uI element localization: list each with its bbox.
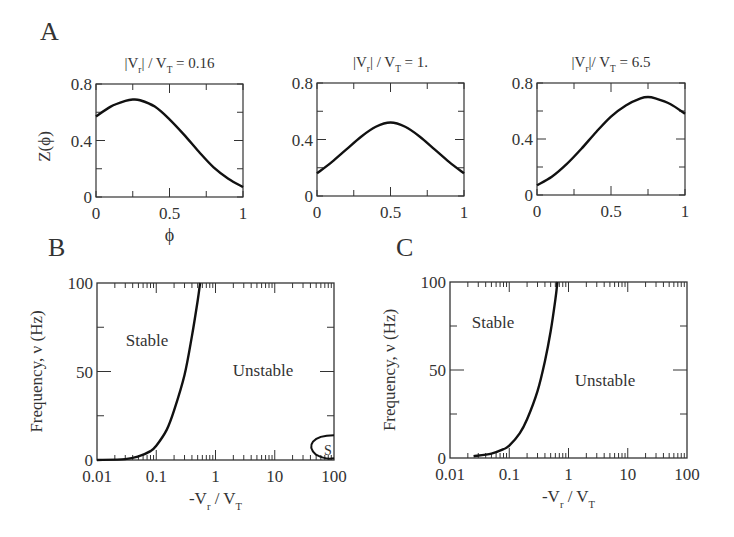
y-axis-label: Frequency, ν (Hz) bbox=[27, 310, 46, 432]
region-label-unstable: Unstable bbox=[233, 361, 293, 380]
y-tick-label: 50 bbox=[76, 363, 93, 382]
region-label-stable: Stable bbox=[472, 313, 515, 332]
plot-a1: 00.40.800.51|Vr| / VT = 0.16ϕZ(ϕ) bbox=[35, 55, 247, 245]
plot-title: |Vr|/ VT = 6.5 bbox=[572, 54, 651, 74]
x-axis-label: ϕ bbox=[165, 225, 174, 245]
z-curve bbox=[317, 123, 464, 174]
x-tick-label: 0.01 bbox=[435, 465, 465, 484]
x-tick-label: 1 bbox=[239, 204, 248, 223]
z-curve bbox=[537, 97, 685, 185]
plot-frame bbox=[317, 83, 464, 196]
plot-title: |Vr| / VT = 1. bbox=[353, 54, 428, 74]
x-tick-label: 100 bbox=[321, 467, 347, 486]
x-tick-label: 0.1 bbox=[499, 465, 520, 484]
y-tick-label: 100 bbox=[68, 274, 94, 293]
figure-canvas: A00.40.800.51|Vr| / VT = 0.16ϕZ(ϕ)00.40.… bbox=[0, 0, 734, 537]
y-tick-label: 0 bbox=[305, 187, 314, 206]
x-axis-label: -Vr / VT bbox=[189, 489, 243, 512]
x-tick-label: 0.01 bbox=[82, 467, 112, 486]
region-label-stable: Stable bbox=[126, 331, 169, 350]
x-tick-label: 0.5 bbox=[159, 204, 180, 223]
plot-a2: 00.40.800.51|Vr| / VT = 1. bbox=[292, 54, 469, 222]
stability-boundary bbox=[474, 282, 558, 456]
y-tick-label: 0.4 bbox=[292, 131, 314, 150]
x-tick-label: 1 bbox=[460, 203, 469, 222]
stability-boundary bbox=[97, 283, 200, 460]
x-tick-label: 100 bbox=[674, 465, 700, 484]
x-axis-label: -Vr / VT bbox=[542, 487, 596, 510]
z-curve bbox=[96, 99, 243, 187]
x-tick-label: 0 bbox=[533, 202, 542, 221]
y-tick-label: 0.8 bbox=[71, 75, 92, 94]
y-axis-label: Frequency, ν (Hz) bbox=[380, 309, 399, 431]
y-tick-label: 0 bbox=[84, 188, 93, 207]
region-label-s: S bbox=[324, 443, 332, 458]
x-tick-label: 10 bbox=[619, 465, 636, 484]
panel-label-a: A bbox=[40, 17, 59, 46]
panel-label-c: C bbox=[396, 233, 413, 262]
x-tick-label: 0.1 bbox=[146, 467, 167, 486]
y-tick-label: 50 bbox=[429, 361, 446, 380]
plot-c: C0501000.010.1110100-Vr / VTFrequency, ν… bbox=[380, 233, 700, 510]
x-tick-label: 0 bbox=[313, 203, 322, 222]
region-label-unstable: Unstable bbox=[575, 371, 635, 390]
x-tick-label: 0.5 bbox=[600, 202, 621, 221]
plot-title: |Vr| / VT = 0.16 bbox=[124, 55, 215, 75]
y-axis-label: Z(ϕ) bbox=[35, 131, 54, 162]
plot-frame bbox=[96, 84, 243, 197]
y-tick-label: 0.8 bbox=[512, 74, 533, 93]
plot-a3: 00.40.800.51|Vr|/ VT = 6.5 bbox=[512, 54, 690, 221]
y-tick-label: 0 bbox=[525, 186, 534, 205]
x-tick-label: 1 bbox=[211, 467, 220, 486]
x-tick-label: 0.5 bbox=[380, 203, 401, 222]
plot-b: B0501000.010.1110100-Vr / VTFrequency, ν… bbox=[27, 233, 347, 512]
y-tick-label: 0.4 bbox=[71, 132, 93, 151]
y-tick-label: 0.8 bbox=[292, 74, 313, 93]
plot-frame bbox=[450, 282, 687, 458]
x-tick-label: 1 bbox=[564, 465, 573, 484]
plot-frame bbox=[97, 283, 334, 460]
x-tick-label: 10 bbox=[266, 467, 283, 486]
y-tick-label: 100 bbox=[421, 273, 447, 292]
x-tick-label: 0 bbox=[92, 204, 101, 223]
y-tick-label: 0.4 bbox=[512, 130, 534, 149]
panel-label-b: B bbox=[48, 233, 65, 262]
x-tick-label: 1 bbox=[681, 202, 690, 221]
